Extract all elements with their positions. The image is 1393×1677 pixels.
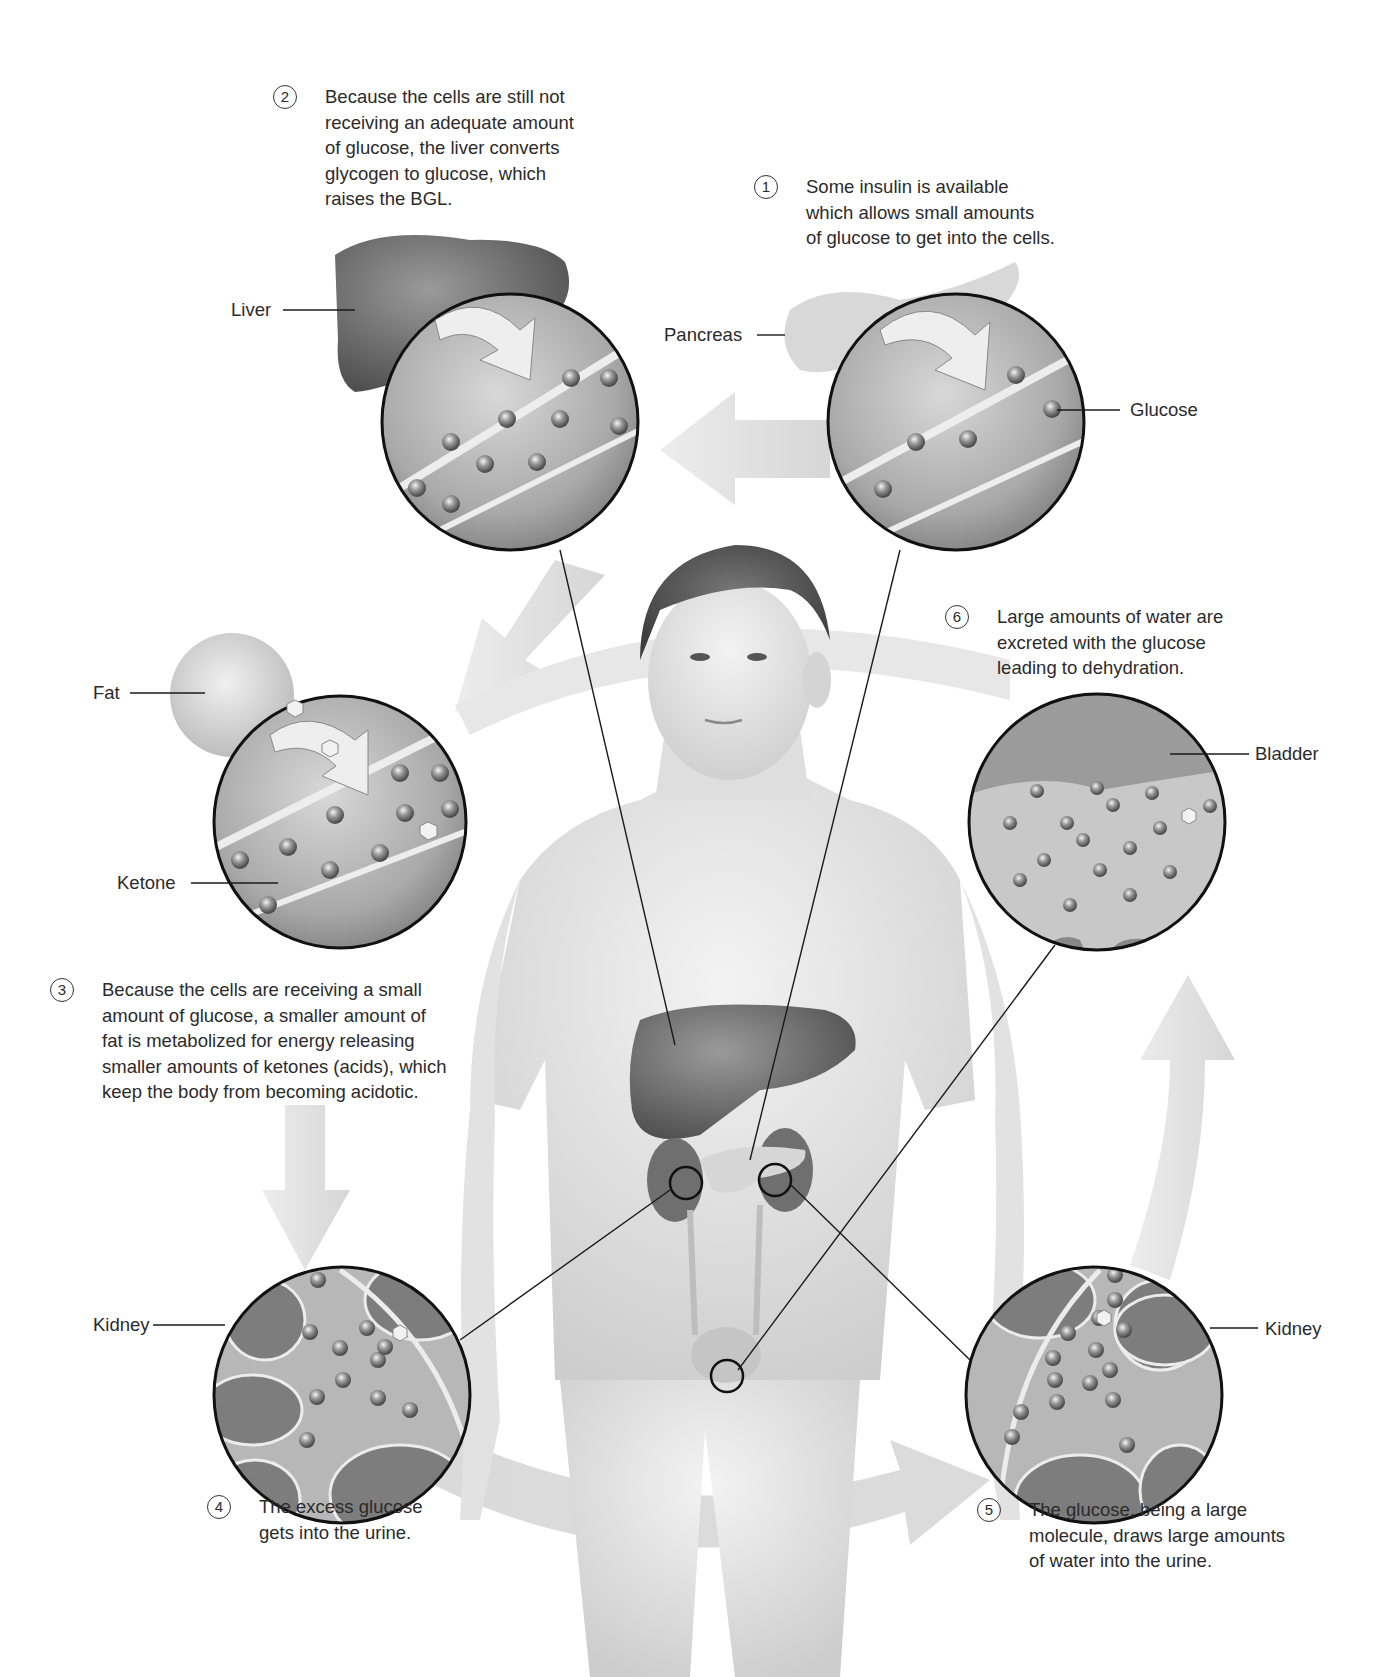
label-kidney-left: Kidney bbox=[93, 1314, 150, 1336]
step-number-badge: 3 bbox=[50, 978, 74, 1002]
step-text: Large amounts of water are excreted with… bbox=[997, 604, 1223, 681]
step-text: Because the cells are receiving a small … bbox=[102, 977, 446, 1105]
label-ketone: Ketone bbox=[117, 872, 176, 894]
label-fat: Fat bbox=[93, 682, 120, 704]
step-number-badge: 5 bbox=[977, 1498, 1001, 1522]
body-bladder bbox=[691, 1327, 761, 1383]
step-text: Some insulin is available which allows s… bbox=[806, 174, 1055, 251]
body-kidney-left bbox=[647, 1138, 703, 1222]
label-bladder: Bladder bbox=[1255, 743, 1319, 765]
step-number-badge: 4 bbox=[207, 1495, 231, 1519]
label-kidney-right: Kidney bbox=[1265, 1318, 1322, 1340]
step-text: The excess glucose gets into the urine. bbox=[259, 1494, 423, 1545]
label-glucose: Glucose bbox=[1130, 399, 1198, 421]
diabetes-cycle-illustration bbox=[0, 0, 1393, 1677]
step-number-badge: 1 bbox=[754, 175, 778, 199]
step-number-badge: 6 bbox=[945, 605, 969, 629]
label-liver: Liver bbox=[231, 299, 271, 321]
step-text: Because the cells are still not receivin… bbox=[325, 84, 574, 212]
step-number-badge: 2 bbox=[273, 85, 297, 109]
step-text: The glucose, being a large molecule, dra… bbox=[1029, 1497, 1285, 1574]
label-pancreas: Pancreas bbox=[664, 324, 742, 346]
